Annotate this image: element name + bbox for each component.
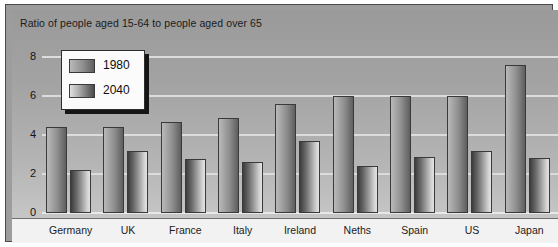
bar-us-2040	[471, 151, 492, 213]
chart-legend: 1980 2040	[61, 50, 145, 110]
y-tick-label-2: 2	[12, 167, 36, 179]
bar-ireland-1980	[275, 104, 296, 213]
x-tick-label-us: US	[443, 224, 500, 236]
bar-neths-1980	[333, 96, 354, 213]
bar-group	[99, 10, 156, 218]
bar-france-2040	[185, 159, 206, 213]
chart-frame: Ratio of people aged 15-64 to people age…	[5, 4, 553, 242]
bar-group	[42, 10, 99, 218]
legend-swatch-1980	[69, 59, 95, 73]
bar-ireland-2040	[299, 141, 320, 213]
bar-neths-2040	[357, 166, 378, 213]
x-tick-label-ireland: Ireland	[271, 224, 328, 236]
bar-group	[386, 10, 443, 218]
bar-germany-2040	[70, 170, 91, 213]
bar-group	[271, 10, 328, 218]
x-tick-label-uk: UK	[99, 224, 156, 236]
legend-label-2040: 2040	[103, 83, 130, 97]
x-tick-label-spain: Spain	[386, 224, 443, 236]
legend-label-1980: 1980	[103, 58, 130, 72]
bar-group	[157, 10, 214, 218]
bar-italy-2040	[242, 162, 263, 213]
x-axis-label-strip: GermanyUKFranceItalyIrelandNethsSpainUSJ…	[12, 218, 558, 243]
bar-france-1980	[161, 122, 182, 213]
bar-group	[329, 10, 386, 218]
bar-uk-1980	[103, 127, 124, 213]
bar-japan-2040	[529, 158, 550, 213]
bar-series-container	[42, 10, 558, 218]
y-tick-label-0: 0	[12, 206, 36, 218]
plot-area: Ratio of people aged 15-64 to people age…	[12, 10, 558, 218]
bar-us-1980	[447, 96, 468, 213]
x-tick-label-japan: Japan	[501, 224, 558, 236]
bar-group	[214, 10, 271, 218]
bar-spain-2040	[414, 157, 435, 213]
legend-swatch-2040	[69, 84, 95, 98]
x-tick-label-germany: Germany	[42, 224, 99, 236]
bar-italy-1980	[218, 118, 239, 213]
x-tick-label-italy: Italy	[214, 224, 271, 236]
bar-germany-1980	[46, 127, 67, 213]
bar-chart-figure: Ratio of people aged 15-64 to people age…	[0, 0, 558, 247]
bar-group	[443, 10, 500, 218]
bar-japan-1980	[505, 65, 526, 213]
bar-spain-1980	[390, 96, 411, 213]
x-tick-label-france: France	[157, 224, 214, 236]
bar-uk-2040	[127, 151, 148, 213]
y-tick-label-6: 6	[12, 89, 36, 101]
bar-group	[501, 10, 558, 218]
y-tick-label-4: 4	[12, 128, 36, 140]
x-tick-label-neths: Neths	[329, 224, 386, 236]
y-tick-label-8: 8	[12, 50, 36, 62]
